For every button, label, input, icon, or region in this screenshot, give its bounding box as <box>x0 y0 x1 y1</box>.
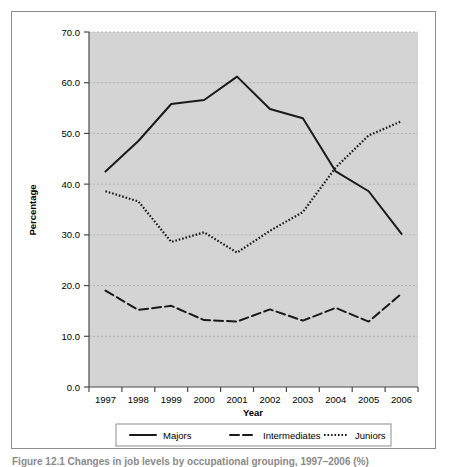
legend-label-juniors: Juniors <box>355 430 386 441</box>
legend-box <box>116 424 391 446</box>
line-chart: 0.010.020.030.040.050.060.070.0 19971998… <box>12 12 435 448</box>
x-axis-tick-label: 2005 <box>358 394 379 405</box>
chart-frame: 0.010.020.030.040.050.060.070.0 19971998… <box>11 11 436 449</box>
y-axis-tick-label: 30.0 <box>62 229 81 240</box>
x-axis-tick-label: 2001 <box>226 394 247 405</box>
y-axis-tick-label: 70.0 <box>62 27 81 38</box>
legend-label-majors: Majors <box>163 430 192 441</box>
x-axis-tick-label: 2003 <box>292 394 313 405</box>
figure-container: 0.010.020.030.040.050.060.070.0 19971998… <box>0 0 449 467</box>
x-axis-tick-label: 2000 <box>194 394 215 405</box>
x-axis-tick-labels: 1997199819992000200120022003200420052006 <box>95 394 412 405</box>
x-axis-tick-label: 2006 <box>391 394 412 405</box>
x-axis-tick-label: 1998 <box>128 394 149 405</box>
x-axis-tick-label: 1999 <box>161 394 182 405</box>
y-axis-tick-label: 10.0 <box>62 331 81 342</box>
y-axis-tick-label: 20.0 <box>62 280 81 291</box>
chart-legend: MajorsIntermediatesJuniors <box>116 424 391 446</box>
y-axis-tick-label: 0.0 <box>67 382 80 393</box>
y-axis-tick-label: 50.0 <box>62 128 81 139</box>
y-axis-tick-labels: 0.010.020.030.040.050.060.070.0 <box>62 27 81 393</box>
plot-background <box>89 32 418 387</box>
legend-label-intermediates: Intermediates <box>263 430 321 441</box>
y-axis-ticks <box>84 32 89 387</box>
figure-caption: Figure 12.1 Changes in job levels by occ… <box>12 456 442 467</box>
y-axis-tick-label: 40.0 <box>62 179 81 190</box>
x-axis-title: Year <box>243 407 263 418</box>
x-axis-ticks <box>89 387 418 392</box>
x-axis-tick-label: 2002 <box>259 394 280 405</box>
x-axis-tick-label: 2004 <box>325 394 346 405</box>
x-axis-tick-label: 1997 <box>95 394 116 405</box>
y-axis-title: Percentage <box>27 184 38 235</box>
y-axis-tick-label: 60.0 <box>62 77 81 88</box>
